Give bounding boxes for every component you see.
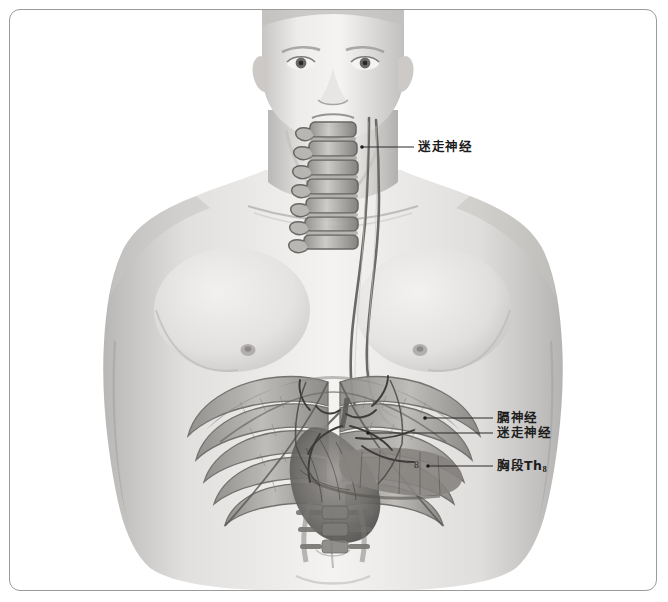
eye-right: [351, 56, 379, 70]
anatomy-drawing: 8: [10, 10, 656, 590]
figure-root: 8 迷走神经 膈神经 迷走神经 胸段Th8: [0, 0, 668, 602]
segment-number-mark: 8: [414, 459, 419, 470]
label-phrenic-nerve: 膈神经: [497, 411, 538, 425]
label-thoracic-subscript: 8: [542, 459, 546, 473]
label-thoracic-segment-th8: 胸段Th8: [497, 459, 547, 474]
anatomy-illustration: 8 迷走神经 膈神经 迷走神经 胸段Th8: [10, 10, 656, 590]
eye-left: [287, 56, 315, 70]
label-thoracic-main: 胸段Th: [497, 458, 542, 473]
label-vagus-nerve-abdominal: 迷走神经: [497, 426, 551, 440]
label-vagus-nerve-cervical: 迷走神经: [418, 140, 472, 154]
